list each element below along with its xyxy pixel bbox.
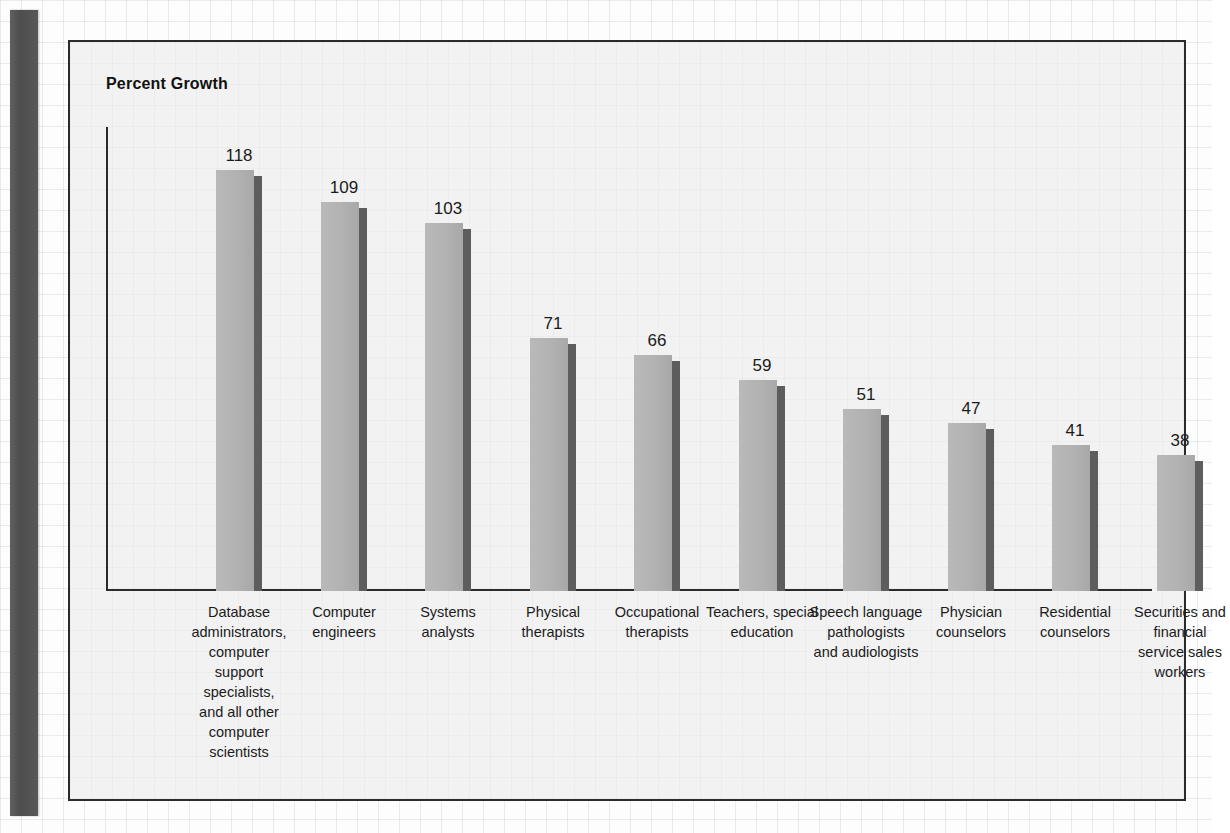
category-label: Systemsanalysts: [389, 602, 507, 642]
category-label-line: computer scientists: [180, 722, 298, 762]
bar-face: [843, 409, 881, 591]
bar-value-label: 47: [936, 399, 1006, 419]
bar-side-shadow: [568, 344, 576, 591]
category-label: Residentialcounselors: [1016, 602, 1134, 642]
bar-value-label: 38: [1145, 431, 1215, 451]
bar-side-shadow: [254, 176, 262, 591]
category-label: Physicaltherapists: [494, 602, 612, 642]
bar-value-label: 71: [518, 314, 588, 334]
category-label-line: education: [703, 622, 821, 642]
category-labels-container: Databaseadministrators,computersupport s…: [90, 602, 1166, 787]
bar: [216, 170, 262, 591]
category-label-line: pathologists: [807, 622, 925, 642]
category-label: Databaseadministrators,computersupport s…: [180, 602, 298, 762]
category-label-line: Physical: [494, 602, 612, 622]
bar-value-label: 118: [204, 146, 274, 166]
bar-value-label: 51: [831, 385, 901, 405]
bars-container: 11810910371665951474138: [106, 42, 1152, 591]
category-label-line: counselors: [1016, 622, 1134, 642]
category-label-line: and audiologists: [807, 642, 925, 662]
bar-side-shadow: [777, 386, 785, 591]
category-label: Physiciancounselors: [912, 602, 1030, 642]
bar: [425, 223, 471, 591]
bar-face: [321, 202, 359, 591]
bar-value-label: 66: [622, 331, 692, 351]
bar-side-shadow: [1090, 451, 1098, 591]
bar: [530, 338, 576, 591]
category-label-line: Systems: [389, 602, 507, 622]
bar-value-label: 109: [309, 178, 379, 198]
category-label-line: workers: [1121, 662, 1230, 682]
bar: [1157, 455, 1203, 591]
chart-panel: Percent Growth 11810910371665951474138 D…: [68, 40, 1186, 801]
bar-face: [634, 355, 672, 591]
bar-side-shadow: [463, 229, 471, 591]
category-label-line: analysts: [389, 622, 507, 642]
category-label-line: and all other: [180, 702, 298, 722]
bar-face: [216, 170, 254, 591]
category-label: Teachers, specialeducation: [703, 602, 821, 642]
binding-spine: [10, 10, 38, 816]
category-label-line: Securities and: [1121, 602, 1230, 622]
category-label-line: financial: [1121, 622, 1230, 642]
category-label-line: Computer: [285, 602, 403, 622]
category-label-line: support specialists,: [180, 662, 298, 702]
bar-face: [948, 423, 986, 591]
category-label-line: Physician: [912, 602, 1030, 622]
bar-face: [1157, 455, 1195, 591]
bar-side-shadow: [672, 361, 680, 591]
bar: [948, 423, 994, 591]
category-label-line: Residential: [1016, 602, 1134, 622]
bar: [843, 409, 889, 591]
category-label-line: Teachers, special: [703, 602, 821, 622]
bar-side-shadow: [1195, 461, 1203, 591]
category-label: Computerengineers: [285, 602, 403, 642]
bar-face: [1052, 445, 1090, 591]
category-label-line: therapists: [494, 622, 612, 642]
bar: [634, 355, 680, 591]
category-label-line: therapists: [598, 622, 716, 642]
bar-face: [739, 380, 777, 591]
category-label: Speech languagepathologistsand audiologi…: [807, 602, 925, 662]
bar-side-shadow: [359, 208, 367, 591]
category-label: Securities andfinancialservice saleswork…: [1121, 602, 1230, 682]
bar: [739, 380, 785, 591]
bar-side-shadow: [881, 415, 889, 591]
bar-face: [425, 223, 463, 591]
category-label-line: Speech language: [807, 602, 925, 622]
bar: [321, 202, 367, 591]
category-label-line: Occupational: [598, 602, 716, 622]
category-label-line: service sales: [1121, 642, 1230, 662]
bar-side-shadow: [986, 429, 994, 591]
category-label-line: counselors: [912, 622, 1030, 642]
bar-face: [530, 338, 568, 591]
category-label: Occupationaltherapists: [598, 602, 716, 642]
category-label-line: engineers: [285, 622, 403, 642]
bar: [1052, 445, 1098, 591]
category-label-line: Database: [180, 602, 298, 622]
category-label-line: computer: [180, 642, 298, 662]
bar-value-label: 103: [413, 199, 483, 219]
bar-value-label: 59: [727, 356, 797, 376]
bar-value-label: 41: [1040, 421, 1110, 441]
category-label-line: administrators,: [180, 622, 298, 642]
